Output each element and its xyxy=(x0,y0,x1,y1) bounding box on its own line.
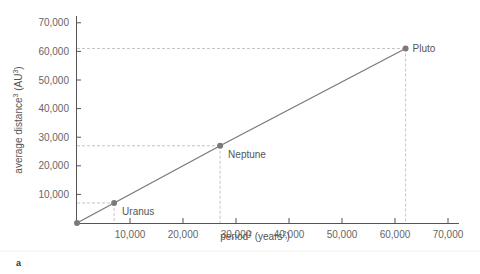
y-tick-label: 40,000 xyxy=(38,103,69,114)
y-tick-label: 50,000 xyxy=(38,75,69,86)
trend-line xyxy=(77,49,406,223)
point-label-neptune: Neptune xyxy=(228,149,266,160)
point-label-pluto: Pluto xyxy=(413,43,436,54)
x-tick-label: 10,000 xyxy=(115,229,146,240)
y-axis-title: average distance3 (AU3) xyxy=(12,66,24,173)
data-point-pluto xyxy=(403,46,409,52)
y-tick-label: 70,000 xyxy=(38,17,69,28)
x-tick-label: 50,000 xyxy=(327,229,358,240)
y-tick-label: 30,000 xyxy=(38,132,69,143)
data-point-uranus xyxy=(111,200,117,206)
y-tick-label: 10,000 xyxy=(38,189,69,200)
y-tick-label: 60,000 xyxy=(38,46,69,57)
panel-label: a xyxy=(16,258,22,268)
data-point-neptune xyxy=(217,143,223,149)
chart: 10,00020,00030,00040,00050,00060,00070,0… xyxy=(0,0,480,274)
x-tick-label: 70,000 xyxy=(433,229,464,240)
x-axis-title: period2 (years2) xyxy=(220,230,290,242)
data-series: UranusNeptunePluto xyxy=(74,43,436,226)
x-tick-label: 60,000 xyxy=(380,229,411,240)
y-tick-label: 20,000 xyxy=(38,160,69,171)
point-label-uranus: Uranus xyxy=(122,206,154,217)
y-ticks: 10,00020,00030,00040,00050,00060,00070,0… xyxy=(38,17,81,200)
data-point-origin xyxy=(74,220,80,226)
x-tick-label: 20,000 xyxy=(168,229,199,240)
